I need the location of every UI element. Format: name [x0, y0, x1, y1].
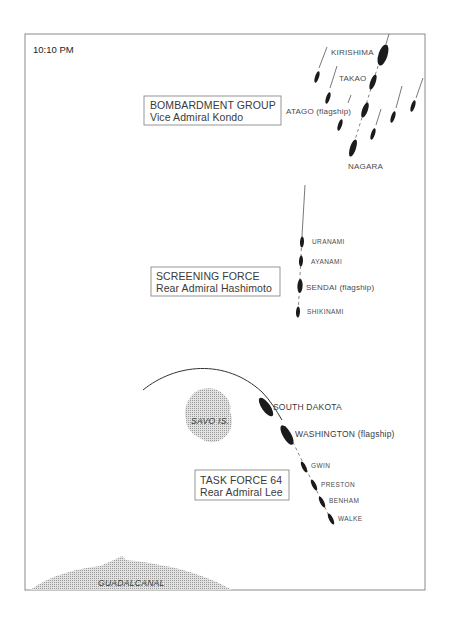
- ship-gwin-icon: [299, 461, 308, 474]
- bombardment-group: KIRISHIMA TAKAO ATAGO (flagship) NAGARA …: [144, 34, 423, 171]
- ship-uranami-icon: [300, 236, 305, 247]
- destroyer-icon: [336, 119, 344, 132]
- destroyer-icon: [313, 71, 321, 84]
- ship-preston-icon: [309, 479, 318, 492]
- screening-force-commander: Rear Admiral Hashimoto: [156, 282, 272, 294]
- task-force-64: SOUTH DAKOTA WASHINGTON (flagship) GWIN …: [143, 368, 395, 525]
- destroyer-icon: [409, 100, 417, 113]
- ship-benham-icon: [317, 496, 326, 509]
- wake-line: [416, 78, 423, 98]
- bombardment-group-title: BOMBARDMENT GROUP: [150, 99, 276, 111]
- wake-line: [302, 185, 305, 236]
- ship-label-south-dakota: SOUTH DAKOTA: [273, 402, 342, 412]
- wake-line: [298, 236, 302, 316]
- ship-ayanami-icon: [299, 255, 304, 266]
- wake-line: [348, 95, 351, 103]
- wake-line: [376, 109, 381, 125]
- ship-label-preston: PRESTON: [321, 481, 355, 488]
- ship-label-washington: WASHINGTON (flagship): [295, 429, 395, 439]
- destroyer-icon: [369, 128, 377, 141]
- wake-line: [330, 66, 337, 88]
- ship-label-takao: TAKAO: [339, 74, 367, 83]
- wake-line: [396, 86, 402, 108]
- ship-washington-icon: [278, 423, 296, 446]
- destroyer-icon: [324, 92, 332, 105]
- ship-label-nagara: NAGARA: [348, 162, 383, 171]
- ship-label-shikinami: SHIKINAMI: [307, 308, 344, 315]
- ship-shikinami-icon: [296, 306, 301, 317]
- task-force-title: TASK FORCE 64: [200, 474, 282, 486]
- time-label: 10:10 PM: [33, 44, 74, 55]
- ship-label-uranami: URANAMI: [312, 238, 345, 245]
- screening-force-title: SCREENING FORCE: [156, 270, 260, 282]
- wake-line: [386, 34, 389, 44]
- ship-label-benham: BENHAM: [329, 497, 359, 504]
- savo-island: SAVO IS.: [185, 388, 232, 442]
- ship-kirishima-icon: [375, 43, 390, 67]
- ship-label-atago: ATAGO (flagship): [286, 107, 351, 116]
- ship-takao-icon: [368, 74, 378, 91]
- ship-atago-icon: [360, 102, 371, 119]
- guadalcanal: GUADALCANAL: [30, 556, 232, 590]
- task-force-commander: Rear Admiral Lee: [200, 486, 283, 498]
- screening-force: URANAMI AYANAMI SENDAI (flagship) SHIKIN…: [151, 185, 374, 318]
- ship-label-ayanami: AYANAMI: [311, 258, 342, 265]
- bombardment-group-commander: Vice Admiral Kondo: [150, 111, 243, 123]
- ship-walke-icon: [326, 513, 335, 526]
- guadalcanal-label: GUADALCANAL: [98, 578, 165, 588]
- ship-sendai-icon: [297, 279, 303, 293]
- ship-label-gwin: GWIN: [311, 462, 330, 469]
- ship-label-walke: WALKE: [338, 515, 363, 522]
- ship-label-sendai: SENDAI (flagship): [306, 283, 374, 292]
- destroyer-icon: [389, 111, 397, 124]
- savo-island-label: SAVO IS.: [191, 416, 229, 426]
- wake-line: [319, 47, 327, 68]
- ship-nagara-icon: [347, 139, 358, 158]
- ship-label-kirishima: KIRISHIMA: [331, 48, 374, 57]
- battle-diagram: 10:10 PM KIRISHIMA TAKAO ATAGO (flagship…: [0, 0, 449, 624]
